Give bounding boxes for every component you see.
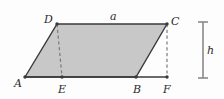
vertex-dot-e bbox=[60, 75, 63, 78]
height-label-h: h bbox=[207, 45, 214, 56]
side-label-a: a bbox=[110, 11, 117, 22]
vertex-dot-f bbox=[165, 75, 168, 78]
vertex-dot-b bbox=[134, 75, 137, 78]
vertex-dot-a bbox=[23, 75, 26, 78]
vertex-label-c: C bbox=[171, 16, 179, 27]
vertex-label-f: F bbox=[163, 84, 171, 95]
vertex-label-d: D bbox=[44, 14, 53, 25]
geometry-figure: A B C D E F a h bbox=[0, 0, 224, 99]
vertex-dot-c bbox=[165, 22, 168, 25]
vertex-label-b: B bbox=[133, 84, 141, 95]
vertex-label-e: E bbox=[58, 84, 66, 95]
parallelogram-shape bbox=[25, 24, 167, 77]
vertex-label-a: A bbox=[14, 78, 22, 89]
vertex-dot-d bbox=[55, 22, 58, 25]
